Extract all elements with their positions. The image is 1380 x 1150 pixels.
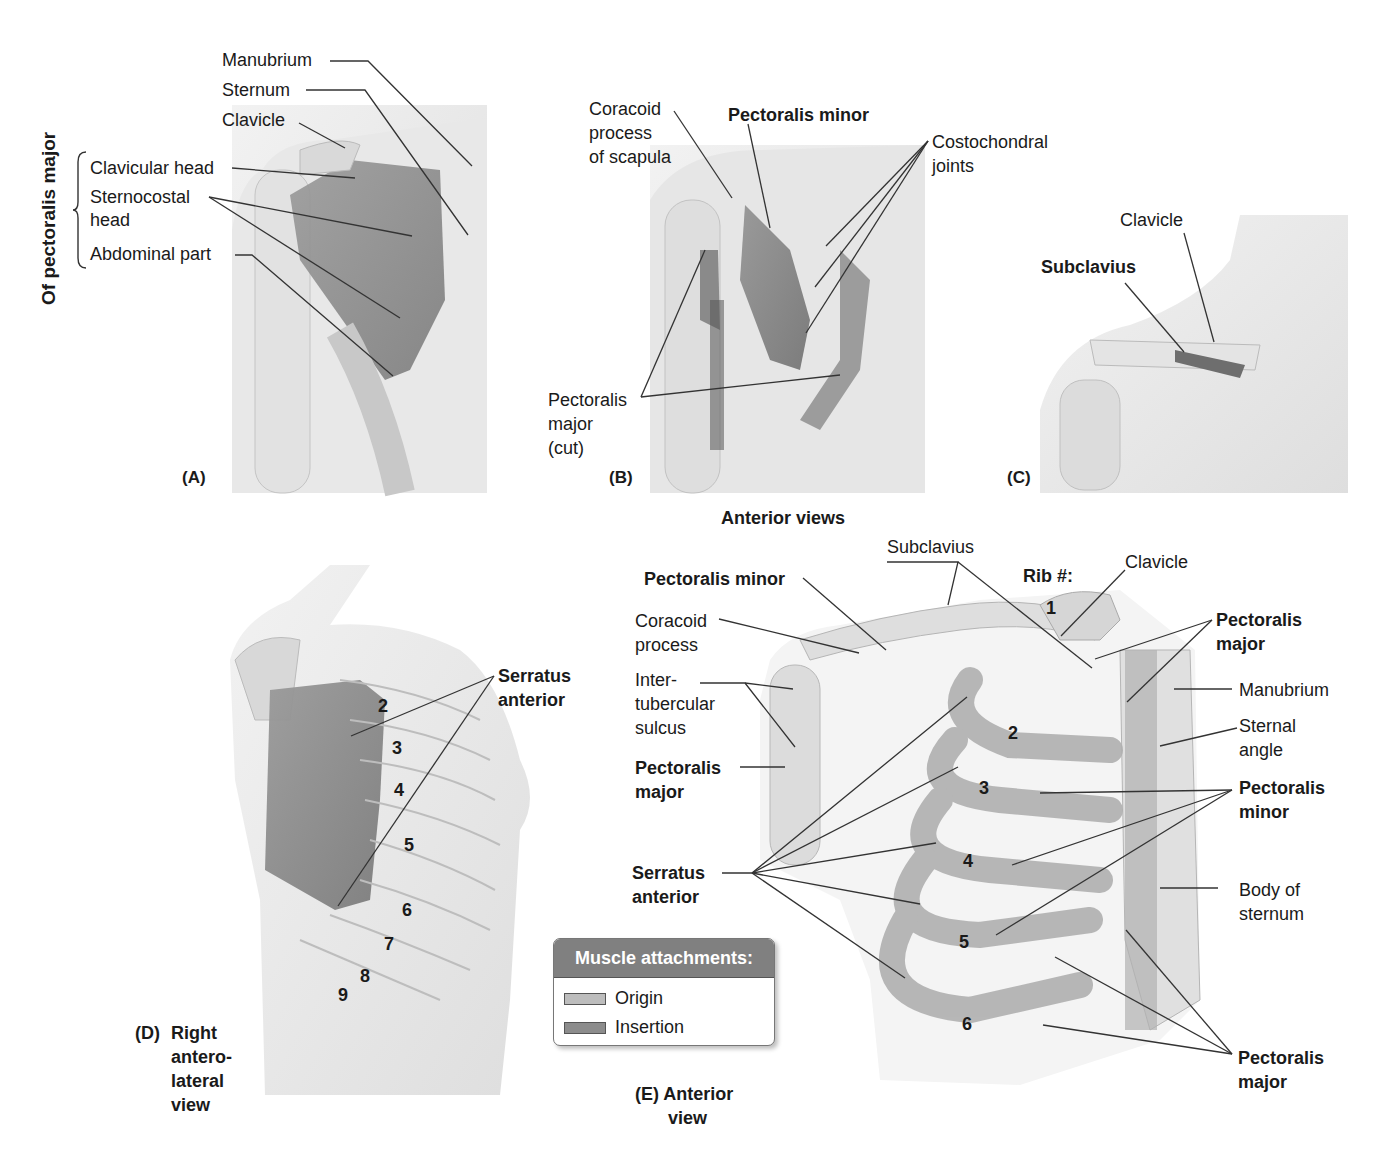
side-title: Of pectoralis major [38, 132, 60, 305]
panel-a-tag: (A) [182, 468, 206, 488]
label-joints: joints [932, 154, 974, 178]
panel-b-tag: (B) [609, 468, 633, 488]
label-clavicle-e: Clavicle [1125, 550, 1188, 574]
label-body-sternum-1: Body of [1239, 878, 1300, 902]
label-coracoid-3: of scapula [589, 145, 671, 169]
group-title: Anterior views [721, 506, 845, 530]
panel-c-tag: (C) [1007, 468, 1031, 488]
rib-number: 9 [338, 983, 348, 1007]
rib-number: 2 [1008, 721, 1018, 745]
label-sternal-angle-1: Sternal [1239, 714, 1296, 738]
label-sternocostal-head: head [90, 208, 130, 232]
rib-number: 4 [963, 849, 973, 873]
label-pec-major-cut-3: (cut) [548, 436, 584, 460]
label-sternocostal: Sternocostal [90, 185, 190, 209]
label-intertubercular-1: Inter- [635, 668, 677, 692]
label-costochondral: Costochondral [932, 130, 1048, 154]
muscle-attachments-legend: Muscle attachments: Origin Insertion [553, 938, 775, 1046]
label-pec-major-left-1: Pectoralis [635, 756, 721, 780]
label-abdominal-part: Abdominal part [90, 242, 211, 266]
panel-e-caption-1: (E) Anterior [635, 1082, 733, 1106]
panel-d-tag: (D) [135, 1021, 160, 1045]
label-pec-major-cut-2: major [548, 412, 593, 436]
label-sternal-angle-2: angle [1239, 738, 1283, 762]
rib-number: 5 [959, 930, 969, 954]
label-clavicle: Clavicle [222, 108, 285, 132]
label-manubrium-e: Manubrium [1239, 678, 1329, 702]
insertion-swatch-icon [564, 1022, 606, 1034]
label-pec-minor-right-2: minor [1239, 800, 1289, 824]
rib-number: 3 [392, 736, 402, 760]
label-clavicular-head: Clavicular head [90, 156, 214, 180]
rib-number: 4 [394, 778, 404, 802]
brace-icon [72, 150, 88, 270]
label-intertubercular-3: sulcus [635, 716, 686, 740]
panel-e-caption-2: view [668, 1106, 707, 1130]
label-serratus-d-2: anterior [498, 688, 565, 712]
label-pec-major-br-2: major [1238, 1070, 1287, 1094]
label-pec-major-left-2: major [635, 780, 684, 804]
panel-d-caption-3: lateral [171, 1069, 224, 1093]
label-pec-major-tr-2: major [1216, 632, 1265, 656]
panel-e-illustration [760, 590, 1200, 1085]
rib-number: 2 [378, 694, 388, 718]
legend-item-label: Origin [615, 988, 663, 1009]
rib-number: 8 [360, 964, 370, 988]
label-body-sternum-2: sternum [1239, 902, 1304, 926]
label-serratus-e-1: Serratus [632, 861, 705, 885]
label-manubrium: Manubrium [222, 48, 312, 72]
label-pectoralis-minor: Pectoralis minor [728, 103, 869, 127]
label-coracoid-e-1: Coracoid [635, 609, 707, 633]
label-coracoid-1: Coracoid [589, 97, 661, 121]
rib-number: 7 [384, 932, 394, 956]
rib-number: 1 [1046, 596, 1056, 620]
legend-item-origin: Origin [554, 984, 774, 1013]
label-intertubercular-2: tubercular [635, 692, 715, 716]
panel-d-caption-4: view [171, 1093, 210, 1117]
legend-title: Muscle attachments: [554, 939, 774, 978]
label-sternum: Sternum [222, 78, 290, 102]
legend-item-insertion: Insertion [554, 1013, 774, 1042]
rib-number: 6 [962, 1012, 972, 1036]
label-pec-major-br-1: Pectoralis [1238, 1046, 1324, 1070]
panel-d-caption-2: antero- [171, 1045, 232, 1069]
label-pec-major-tr-1: Pectoralis [1216, 608, 1302, 632]
label-subclavius-c: Subclavius [1041, 255, 1136, 279]
label-pec-minor-right-1: Pectoralis [1239, 776, 1325, 800]
panel-a-illustration [232, 105, 487, 493]
label-subclavius-e: Subclavius [887, 535, 974, 559]
rib-number: 6 [402, 898, 412, 922]
rib-heading: Rib #: [1023, 564, 1073, 588]
rib-number: 5 [404, 833, 414, 857]
legend-item-label: Insertion [615, 1017, 684, 1038]
label-coracoid-e-2: process [635, 633, 698, 657]
label-pec-minor-top: Pectoralis minor [644, 567, 785, 591]
label-clavicle-c: Clavicle [1120, 208, 1183, 232]
label-pec-major-cut-1: Pectoralis [548, 388, 627, 412]
panel-d-caption-1: Right [171, 1021, 217, 1045]
label-serratus-d-1: Serratus [498, 664, 571, 688]
panel-d-illustration [230, 565, 530, 1095]
label-coracoid-2: process [589, 121, 652, 145]
label-serratus-e-2: anterior [632, 885, 699, 909]
origin-swatch-icon [564, 993, 606, 1005]
rib-number: 3 [979, 776, 989, 800]
